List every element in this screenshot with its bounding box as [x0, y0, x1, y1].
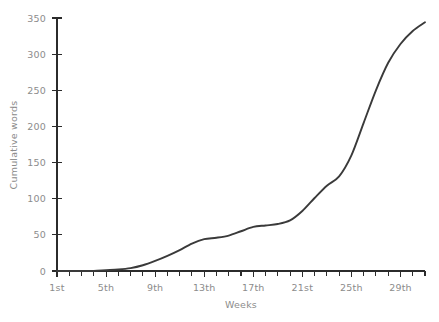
chart-container: 050100150200250300350 1st5th9th13th17th2…: [0, 0, 439, 322]
chart-background: [0, 0, 439, 322]
x-axis-tick-label: 17th: [242, 282, 265, 293]
x-axis-tick-label: 9th: [147, 282, 163, 293]
y-axis-tick-label: 100: [27, 193, 46, 204]
x-axis-tick-label: 29th: [389, 282, 412, 293]
x-axis-tick-label: 5th: [98, 282, 114, 293]
y-axis-tick-label: 250: [27, 85, 46, 96]
y-axis-title: Cumulative words: [8, 101, 19, 190]
y-axis-tick-label: 0: [40, 266, 46, 277]
x-axis-tick-label: 13th: [193, 282, 216, 293]
y-axis-tick-label: 50: [34, 229, 47, 240]
x-axis-tick-label: 25th: [340, 282, 363, 293]
cumulative-words-line-chart: 050100150200250300350 1st5th9th13th17th2…: [0, 0, 439, 322]
x-axis-tick-label: 1st: [49, 282, 64, 293]
x-axis-title: Weeks: [225, 299, 257, 310]
y-axis-tick-label: 300: [27, 49, 46, 60]
x-axis-tick-label: 21st: [292, 282, 314, 293]
y-axis-tick-label: 150: [27, 157, 46, 168]
y-axis-tick-label: 350: [27, 13, 46, 24]
y-axis-tick-label: 200: [27, 121, 46, 132]
